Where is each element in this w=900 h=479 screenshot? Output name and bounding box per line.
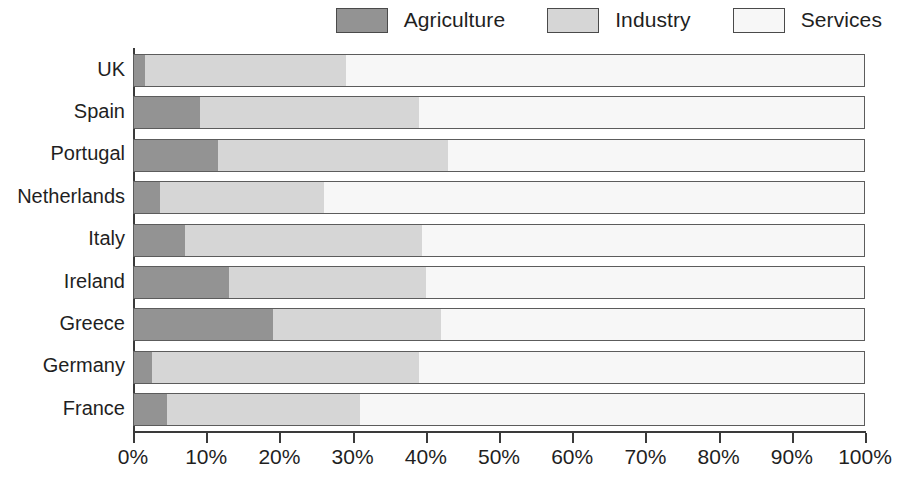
bar-segment-industry	[145, 55, 346, 86]
bar-segment-services	[360, 394, 864, 425]
bar-segment-industry	[160, 182, 324, 213]
bar-segment-industry	[218, 140, 448, 171]
bar-segment-services	[346, 55, 864, 86]
legend-item-industry: Industry	[547, 8, 691, 33]
bar-segment-services	[324, 182, 864, 213]
y-axis-label-portugal: Portugal	[5, 142, 125, 165]
y-axis-label-germany: Germany	[5, 354, 125, 377]
x-tick-mark	[279, 433, 281, 443]
bar-row	[133, 266, 865, 299]
bar-segment-industry	[200, 97, 419, 128]
x-tick-mark	[792, 433, 794, 443]
x-tick-label: 70%	[624, 445, 666, 469]
x-tick-mark	[719, 433, 721, 443]
legend-label-industry: Industry	[615, 8, 691, 32]
x-tick-mark	[133, 433, 135, 443]
legend-swatch-services-icon	[733, 8, 785, 33]
x-tick-label: 30%	[332, 445, 374, 469]
bar-segment-industry	[185, 225, 422, 256]
bar-segment-agriculture	[134, 97, 200, 128]
bar-row	[133, 351, 865, 384]
legend-swatch-agriculture-icon	[336, 8, 388, 33]
y-axis-label-spain: Spain	[5, 100, 125, 123]
y-axis-label-italy: Italy	[5, 227, 125, 250]
x-tick-mark	[353, 433, 355, 443]
legend-label-agriculture: Agriculture	[404, 8, 505, 32]
x-tick-mark	[206, 433, 208, 443]
x-tick-label: 90%	[771, 445, 813, 469]
bar-segment-agriculture	[134, 309, 273, 340]
bar-segment-services	[441, 309, 864, 340]
bar-segment-agriculture	[134, 394, 167, 425]
bar-row	[133, 393, 865, 426]
bar-segment-agriculture	[134, 55, 145, 86]
x-tick-label: 50%	[478, 445, 520, 469]
bar-segment-services	[419, 352, 864, 383]
y-axis-label-greece: Greece	[5, 312, 125, 335]
y-axis-label-netherlands: Netherlands	[5, 185, 125, 208]
x-tick-label: 20%	[258, 445, 300, 469]
bar-segment-agriculture	[134, 352, 152, 383]
stacked-bar-chart: Agriculture Industry Services UKSpainPor…	[0, 0, 900, 479]
y-axis-labels: UKSpainPortugalNetherlandsItalyIrelandGr…	[0, 48, 125, 431]
x-tick-mark	[426, 433, 428, 443]
bar-row	[133, 308, 865, 341]
y-axis-label-uk: UK	[5, 58, 125, 81]
bar-segment-services	[448, 140, 864, 171]
y-axis-label-ireland: Ireland	[5, 270, 125, 293]
bar-segment-services	[419, 97, 864, 128]
bar-segment-agriculture	[134, 267, 229, 298]
chart-legend: Agriculture Industry Services	[0, 0, 900, 40]
bar-row	[133, 139, 865, 172]
x-tick-label: 0%	[118, 445, 148, 469]
bar-row	[133, 181, 865, 214]
bar-segment-agriculture	[134, 182, 160, 213]
legend-label-services: Services	[801, 8, 882, 32]
bar-segment-industry	[152, 352, 418, 383]
x-tick-mark	[865, 433, 867, 443]
bar-segment-services	[422, 225, 864, 256]
x-axis-ticks: 0%10%20%30%40%50%60%70%80%90%100%	[133, 433, 866, 479]
x-tick-label: 40%	[405, 445, 447, 469]
bar-segment-industry	[273, 309, 441, 340]
bar-segment-industry	[167, 394, 360, 425]
bar-row	[133, 224, 865, 257]
x-tick-label: 60%	[551, 445, 593, 469]
x-tick-label: 80%	[698, 445, 740, 469]
legend-item-services: Services	[733, 8, 882, 33]
y-axis-label-france: France	[5, 397, 125, 420]
x-tick-mark	[645, 433, 647, 443]
x-tick-label: 100%	[838, 445, 892, 469]
bar-row	[133, 96, 865, 129]
plot-area	[133, 48, 865, 429]
bar-segment-agriculture	[134, 225, 185, 256]
bar-segment-services	[426, 267, 864, 298]
bar-segment-industry	[229, 267, 426, 298]
legend-swatch-industry-icon	[547, 8, 599, 33]
bar-segment-agriculture	[134, 140, 218, 171]
x-tick-label: 10%	[185, 445, 227, 469]
legend-item-agriculture: Agriculture	[336, 8, 505, 33]
x-tick-mark	[572, 433, 574, 443]
bar-row	[133, 54, 865, 87]
x-tick-mark	[499, 433, 501, 443]
